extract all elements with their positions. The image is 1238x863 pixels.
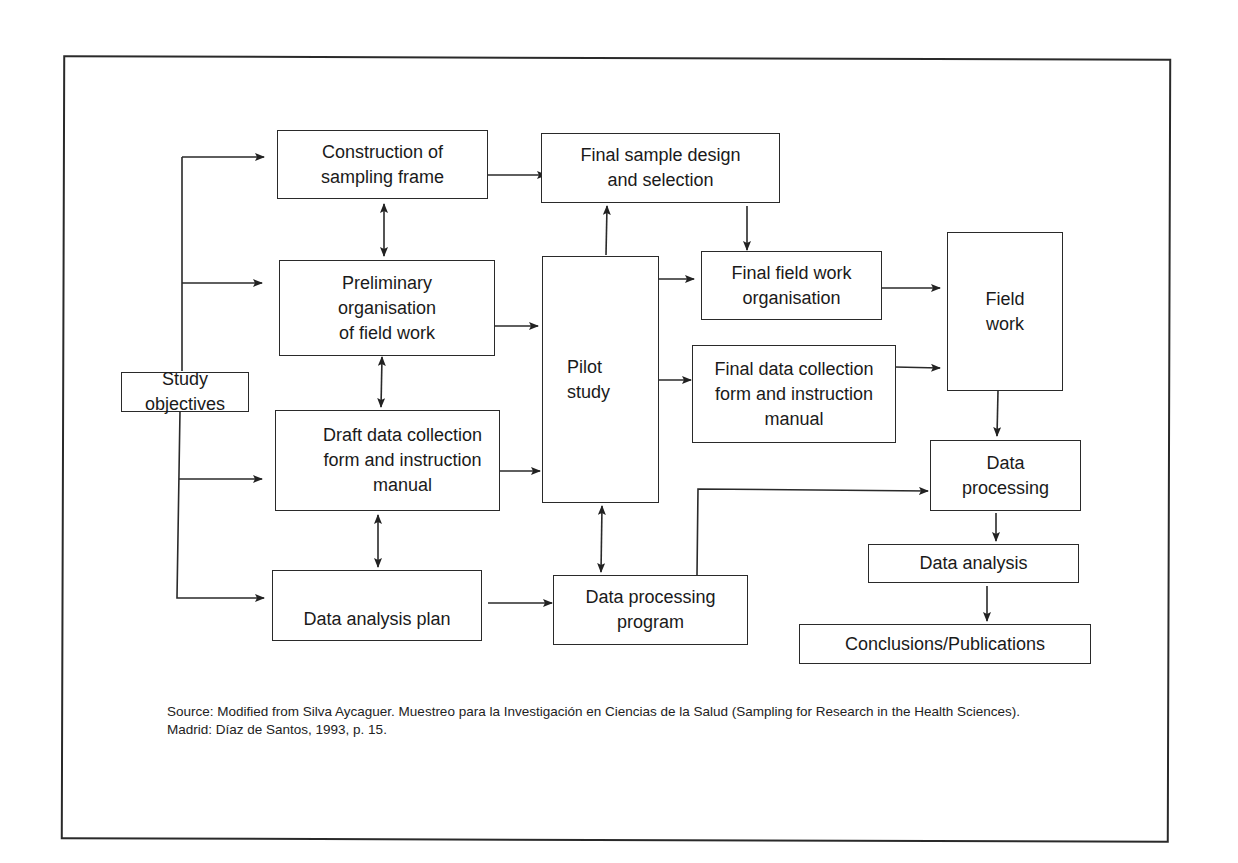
node-label: Data processing	[962, 451, 1049, 501]
node-data-analysis: Data analysis	[868, 544, 1079, 583]
node-label: Pilot study	[567, 355, 610, 405]
node-data-analysis-plan: Data analysis plan	[272, 570, 482, 641]
node-data-processing-program: Data processing program	[553, 575, 748, 645]
node-label: Field work	[985, 287, 1024, 337]
node-data-processing: Data processing	[930, 440, 1081, 511]
node-label: Final data collection form and instructi…	[714, 357, 873, 432]
node-label: Data analysis plan	[303, 607, 450, 632]
node-label: Conclusions/Publications	[845, 632, 1045, 657]
node-preliminary-organisation: Preliminary organisation of field work	[279, 260, 495, 356]
node-pilot-study: Pilot study	[542, 256, 659, 503]
node-construction-sampling-frame: Construction of sampling frame	[277, 130, 488, 199]
node-draft-data-collection: Draft data collection form and instructi…	[275, 410, 500, 511]
node-label: Data processing program	[585, 585, 715, 635]
source-citation: Source: Modified from Silva Aycaguer. Mu…	[167, 703, 1047, 739]
node-label: Preliminary organisation of field work	[338, 271, 436, 346]
node-final-sample-design: Final sample design and selection	[541, 133, 780, 203]
node-label: Construction of sampling frame	[321, 140, 444, 190]
node-label: Final sample design and selection	[580, 143, 740, 193]
node-label: Data analysis	[919, 551, 1027, 576]
node-label: Final field work organisation	[731, 261, 851, 311]
node-conclusions-publications: Conclusions/Publications	[799, 624, 1091, 664]
node-label: Draft data collection form and instructi…	[323, 423, 482, 498]
node-field-work: Field work	[947, 232, 1063, 391]
node-final-data-collection: Final data collection form and instructi…	[692, 345, 896, 443]
node-final-field-work-organisation: Final field work organisation	[701, 251, 882, 320]
node-label: Study objectives	[145, 367, 225, 417]
node-study-objectives: Study objectives	[121, 372, 249, 412]
